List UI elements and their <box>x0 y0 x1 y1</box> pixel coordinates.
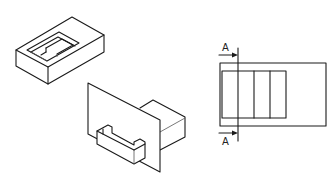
top-view-section <box>219 48 326 141</box>
section-arrow-top-icon <box>232 53 238 58</box>
isometric-box-with-recess <box>16 17 104 84</box>
section-arrow-bottom-icon <box>232 131 238 136</box>
isometric-plate-with-blocks <box>88 83 185 172</box>
section-label-top: A <box>222 43 229 53</box>
drawing-canvas <box>0 0 336 186</box>
section-label-bottom: A <box>222 137 229 147</box>
